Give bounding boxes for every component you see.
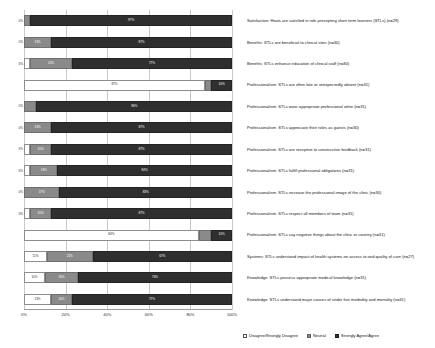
x-tick-label: 60% [145,312,153,317]
bar-segment-value: 87% [138,41,144,44]
bar-segment-agree: 77% [72,58,232,69]
legend-swatch-neutral [307,334,311,338]
category-label: Systems: STLs understand impact of healt… [247,246,432,267]
bar-segment-value: 87% [138,148,144,151]
category-label: Professionalism: STLs fulfill profession… [247,160,432,181]
bar-segment-value: 13% [34,126,40,129]
bar-segment-value: 97% [128,19,134,22]
bar-segment-agree: 87% [51,208,232,219]
bar-segment-value: 10% [219,233,225,236]
bar-segment-value: 16% [58,276,64,279]
bar-segment-value: 77% [149,62,155,65]
gridline-100 [232,10,233,310]
x-tick-label: 40% [103,312,111,317]
bar-segment-disagree: 13% [24,294,51,305]
bar-row-left-tick: 0% [19,190,23,194]
bar-segment-value: 10% [38,212,44,215]
bar-segment-agree: 94% [36,101,232,112]
bar-segment-neutral: 10% [30,208,51,219]
bar-segment-agree: 10% [211,230,232,241]
bar-segment-agree: 83% [59,187,232,198]
legend-swatch-agree [335,334,339,338]
bar-segment-agree: 87% [51,122,232,133]
bar-segment-agree: 87% [51,37,232,48]
bar-segment-value: 83% [143,191,149,194]
bar-segment-agree: 77% [72,294,232,305]
category-label: Professionalism: STLs wear appropriate p… [247,96,432,117]
bar-segment-value: 74% [152,276,158,279]
bar-segment-disagree: 11% [24,251,47,262]
category-label: Benefits: STLs enhance education of clin… [247,53,432,74]
category-label: Professionalism: STLs appreciate their r… [247,117,432,138]
bar-segment-value: 77% [149,298,155,301]
bar-row: 3%3%10%87% [24,208,232,219]
bar-segment-neutral: 6% [24,101,36,112]
bar-segment-disagree: 87% [24,80,205,91]
bar-segment-neutral: 16% [45,272,78,283]
bar-segment-neutral: 13% [24,37,51,48]
bar-rows: 0%3%97%0%13%87%3%3%20%77%87%3%10%0%6%94%… [24,10,232,310]
bar-segment-neutral: 6% [199,230,211,241]
x-axis-tick-labels: 0%20%40%60%80%100% [24,312,232,322]
legend-label-disagree: Disagree/Strongly Disagree [249,333,298,338]
x-tick-label: 100% [227,312,237,317]
legend-item-disagree: Disagree/Strongly Disagree [243,333,298,338]
bar-segment-value: 11% [33,255,39,258]
bar-row: 3%3%13%84% [24,165,232,176]
x-tick-label: 0% [21,312,27,317]
bar-segment-agree: 84% [57,165,232,176]
bar-segment-agree: 10% [211,80,232,91]
bar-row: 0%6%94% [24,101,232,112]
category-label: Professionalism: STLs say negative thing… [247,224,432,245]
bar-segment-value: 10% [58,298,64,301]
bar-row: 3%3%10%87% [24,144,232,155]
category-label: Professionalism: STLs are receptive to c… [247,139,432,160]
bar-segment-value: 13% [34,41,40,44]
category-label: Professionalism: STLs increase the profe… [247,181,432,202]
bar-row: 10%16%74% [24,272,232,283]
bar-row-left-tick: 0% [19,40,23,44]
legend-item-agree: Strongly Agree/Agree [335,333,379,338]
bar-segment-value: 10% [38,148,44,151]
bar-segment-value: 84% [108,233,114,236]
x-axis-line [24,309,232,310]
bar-segment-value: 84% [142,169,148,172]
x-tick-label: 80% [186,312,194,317]
bar-segment-neutral: 10% [51,294,72,305]
bar-row: 3%3%20%77% [24,58,232,69]
category-label: Professionalism: STLs respect all member… [247,203,432,224]
category-label: Benefits: STLs are beneficial to clinica… [247,31,432,52]
category-label: Professionalism: STLs are often late or … [247,74,432,95]
bar-row-left-tick: 0% [19,19,23,23]
stacked-bar-chart: 0%3%97%0%13%87%3%3%20%77%87%3%10%0%6%94%… [0,0,435,348]
bar-row: 84%6%10% [24,230,232,241]
bar-segment-neutral: 13% [24,122,51,133]
bar-row: 0%17%83% [24,187,232,198]
category-labels: Satisfaction: Hosts are satisfied in rol… [247,10,433,310]
bar-row: 11%22%67% [24,251,232,262]
bar-segment-value: 17% [39,191,45,194]
legend-item-neutral: Neutral [307,333,326,338]
bar-row: 13%10%77% [24,294,232,305]
bar-row: 0%13%87% [24,37,232,48]
bar-segment-agree: 74% [78,272,232,283]
bar-segment-value: 87% [111,83,117,86]
category-label: Satisfaction: Hosts are satisfied in rol… [247,10,432,31]
bar-segment-value: 10% [219,83,225,86]
bar-row-left-tick: 3% [19,62,23,66]
bar-segment-value: 10% [31,276,37,279]
bar-segment-disagree: 84% [24,230,199,241]
bar-segment-neutral: 22% [47,251,93,262]
bar-row: 87%3%10% [24,80,232,91]
bar-row: 0%13%87% [24,122,232,133]
legend-label-agree: Strongly Agree/Agree [341,333,379,338]
bar-segment-agree: 97% [30,15,232,26]
bar-segment-value: 13% [34,298,40,301]
bar-row-left-tick: 3% [19,212,23,216]
bar-row-left-tick: 0% [19,126,23,130]
bar-segment-agree: 87% [51,144,232,155]
bar-row-left-tick: 3% [19,169,23,173]
bar-segment-neutral: 10% [30,144,51,155]
bar-segment-value: 67% [159,255,165,258]
category-label: Knowledge: STLs possess appropriate medi… [247,267,432,288]
